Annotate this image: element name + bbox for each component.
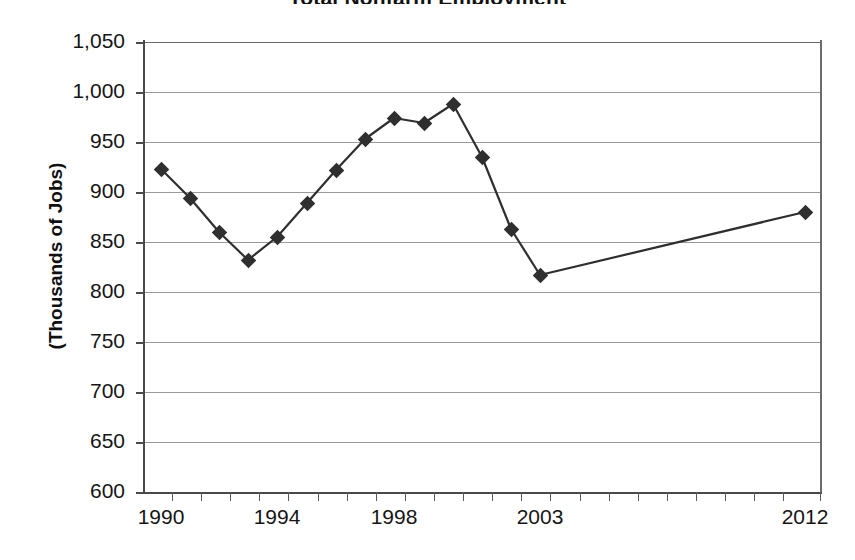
x-tick-label: 1998 [334, 505, 454, 529]
x-tick-label: 2003 [480, 505, 600, 529]
x-tick-label: 1994 [217, 505, 337, 529]
chart-title-clipped: Total Nonfarm Employment [0, 0, 855, 4]
y-tick-label: 950 [25, 129, 125, 153]
y-tick-label: 600 [25, 479, 125, 503]
y-tick-label: 650 [25, 429, 125, 453]
y-tick-label: 800 [25, 279, 125, 303]
y-tick-label: 850 [25, 229, 125, 253]
y-tick-label: 700 [25, 379, 125, 403]
chart-root: Total Nonfarm Employment (Thousands of J… [0, 0, 855, 560]
x-tick-label: 2012 [745, 505, 855, 529]
y-tick-label: 900 [25, 179, 125, 203]
series-line [143, 42, 820, 494]
y-tick-label: 1,000 [25, 79, 125, 103]
plot-area [143, 42, 820, 492]
plot-right-border [820, 40, 822, 494]
x-tick [820, 492, 821, 501]
x-tick-label: 1990 [101, 505, 221, 529]
y-tick-label: 750 [25, 329, 125, 353]
y-tick-label: 1,050 [25, 29, 125, 53]
